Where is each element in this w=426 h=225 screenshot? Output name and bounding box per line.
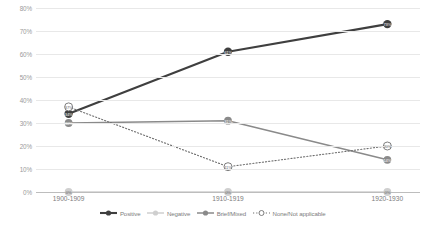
series-line-none-not-applicable (69, 107, 388, 167)
legend-label: Positive (120, 210, 141, 217)
x-axis-tick-label: 1910-1919 (212, 195, 244, 202)
legend-swatch-icon (197, 209, 214, 217)
legend-label: None/Not applicable (273, 210, 326, 217)
legend-item-positive[interactable]: Positive (100, 209, 140, 217)
legend-item-brief-mixed[interactable]: Brief/Mixed (197, 209, 246, 217)
chart-legend: PositiveNegativeBrief/MixedNone/Not appl… (0, 209, 426, 217)
legend-swatch-icon (147, 209, 164, 217)
y-axis-tick-label: 0% (23, 189, 32, 196)
gridline (36, 77, 420, 78)
gridline (36, 169, 420, 170)
data-point-marker (383, 156, 391, 164)
gridline (36, 123, 420, 124)
y-axis-tick-label: 40% (20, 97, 32, 104)
y-axis-tick-label: 10% (20, 166, 32, 173)
gridline (36, 31, 420, 32)
series-line-brief-mixed (69, 121, 388, 160)
y-axis: 0%10%20%30%40%50%60%70%80% (0, 0, 32, 200)
y-axis-tick-label: 70% (20, 28, 32, 35)
x-axis-tick-label: 1900-1909 (53, 195, 85, 202)
legend-label: Brief/Mixed (217, 210, 246, 217)
legend-swatch-icon (253, 209, 270, 217)
axis-baseline (36, 192, 420, 193)
gridline (36, 100, 420, 101)
y-axis-tick-label: 50% (20, 74, 32, 81)
plot-area: 1900-19091910-19191920-193034%61%73%0%0%… (36, 0, 420, 200)
data-point-marker (383, 20, 391, 28)
gridline (36, 54, 420, 55)
x-axis-tick-label: 1920-1930 (372, 195, 404, 202)
y-axis-tick-label: 20% (20, 143, 32, 150)
gridline (36, 146, 420, 147)
line-chart: 0%10%20%30%40%50%60%70%80% 1900-19091910… (0, 0, 426, 225)
legend-swatch-icon (100, 209, 117, 217)
y-axis-tick-label: 80% (20, 5, 32, 12)
data-point-marker (65, 103, 73, 111)
y-axis-tick-label: 60% (20, 51, 32, 58)
legend-item-negative[interactable]: Negative (147, 209, 190, 217)
legend-label: Negative (167, 210, 190, 217)
gridline (36, 8, 420, 9)
y-axis-tick-label: 30% (20, 120, 32, 127)
legend-item-none-not-applicable[interactable]: None/Not applicable (253, 209, 325, 217)
